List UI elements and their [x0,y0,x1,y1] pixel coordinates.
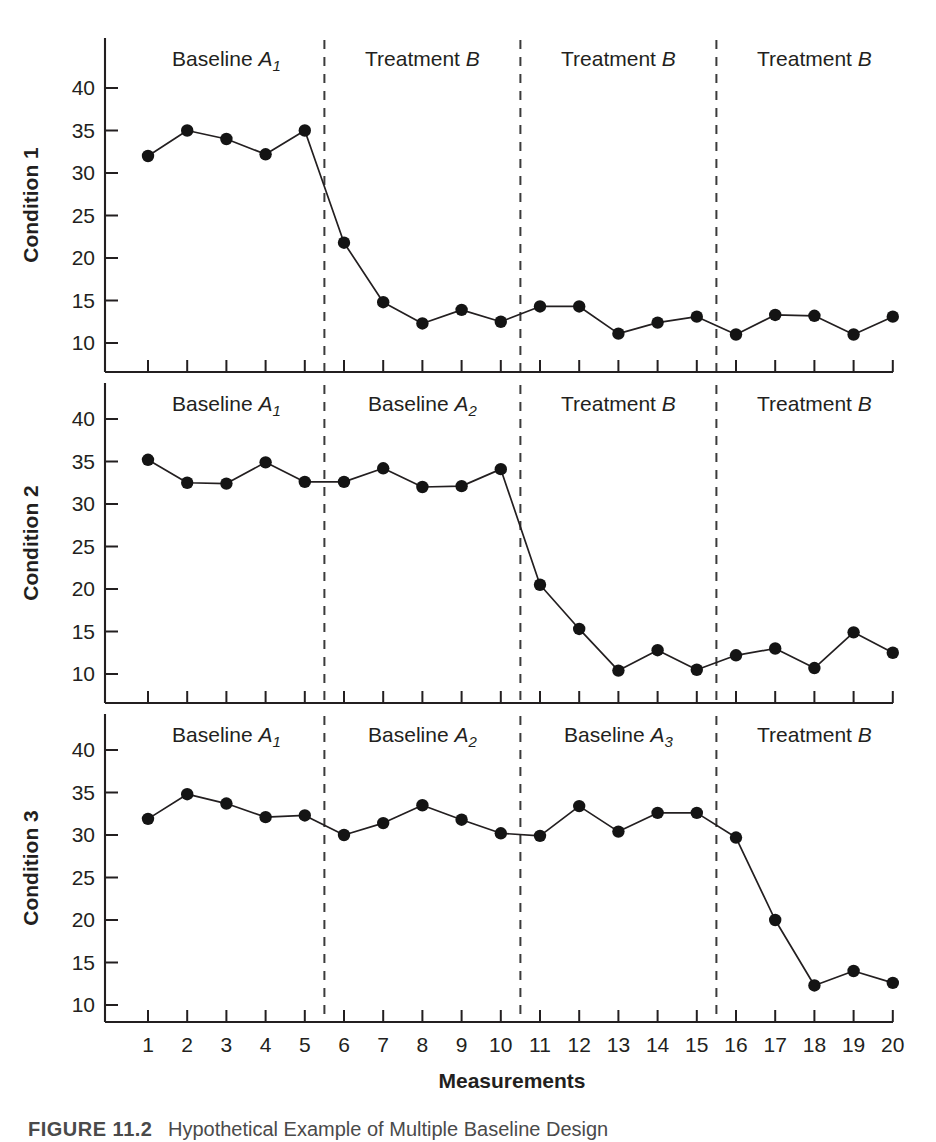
data-point [847,328,859,340]
data-point [769,309,781,321]
y-tick-label: 15 [72,951,95,974]
x-tick-label: 7 [377,1033,389,1056]
phase-label-3: Treatment B [561,392,676,415]
multiple-baseline-chart: 10152025303540Baseline A1Treatment BTrea… [0,0,936,1142]
data-point [808,979,820,991]
y-tick-label: 25 [72,204,95,227]
data-point [455,480,467,492]
data-point [651,316,663,328]
y-tick-label: 40 [72,738,95,761]
y-tick-label: 35 [72,781,95,804]
x-tick-label: 17 [764,1033,787,1056]
panel-y-axis-label: Condition 1 [19,147,42,263]
phase-label-4: Treatment B [757,723,872,746]
data-point [181,477,193,489]
y-tick-label: 30 [72,161,95,184]
x-axis-group: 1234567891011121314151617181920 [142,1033,904,1056]
data-point [691,664,703,676]
data-point [142,454,154,466]
data-point [142,150,154,162]
data-point [259,811,271,823]
data-point [181,124,193,136]
data-point [220,477,232,489]
caption-line: FIGURE 11.2 Hypothetical Example of Mult… [28,1118,608,1140]
x-tick-label: 16 [724,1033,747,1056]
x-tick-label: 9 [456,1033,468,1056]
y-tick-label: 15 [72,289,95,312]
data-point [495,463,507,475]
panels-group: 10152025303540Baseline A1Treatment BTrea… [19,38,899,1022]
data-point [377,296,389,308]
y-tick-label: 40 [72,76,95,99]
panel-2: 10152025303540Baseline A1Baseline A2Trea… [19,383,899,703]
data-point [377,817,389,829]
data-point [142,813,154,825]
y-tick-label: 30 [72,492,95,515]
caption-prefix: FIGURE 11.2 [28,1118,152,1140]
data-point [259,456,271,468]
data-point [416,799,428,811]
phase-label-2: Treatment B [365,47,480,70]
panel-3: 10152025303540Baseline A1Baseline A2Base… [19,714,899,1022]
data-point [691,310,703,322]
data-point [377,462,389,474]
panel-1: 10152025303540Baseline A1Treatment BTrea… [19,38,899,372]
data-point [534,830,546,842]
data-point [259,148,271,160]
data-point [651,807,663,819]
data-point [769,914,781,926]
x-tick-label: 1 [142,1033,154,1056]
panel-y-axis-label: Condition 2 [19,485,42,600]
data-point [808,310,820,322]
data-point [220,133,232,145]
data-point [887,977,899,989]
phase-label-2: Baseline A2 [368,723,477,750]
data-point [691,807,703,819]
y-tick-label: 10 [72,993,95,1016]
data-point [338,237,350,249]
x-tick-label: 18 [803,1033,826,1056]
x-tick-label: 15 [685,1033,708,1056]
y-tick-label: 35 [72,119,95,142]
phase-label-1: Baseline A1 [172,723,281,750]
y-tick-label: 30 [72,823,95,846]
x-tick-label: 5 [299,1033,311,1056]
x-tick-label: 4 [260,1033,272,1056]
phase-label-4: Treatment B [757,47,872,70]
x-axis-title: Measurements [438,1069,585,1092]
x-tick-label: 12 [568,1033,591,1056]
x-tick-label: 10 [489,1033,512,1056]
data-point [573,300,585,312]
data-point [495,316,507,328]
y-tick-label: 20 [72,908,95,931]
data-point [455,304,467,316]
panel-y-axis-label: Condition 3 [19,810,42,925]
phase-label-3: Treatment B [561,47,676,70]
y-tick-label: 35 [72,450,95,473]
data-point [651,644,663,656]
data-point [730,831,742,843]
y-tick-label: 25 [72,535,95,558]
data-point [416,481,428,493]
y-tick-label: 40 [72,407,95,430]
data-point [730,649,742,661]
phase-label-1: Baseline A1 [172,47,281,74]
data-point [612,825,624,837]
phase-label-4: Treatment B [757,392,872,415]
y-tick-label: 15 [72,620,95,643]
x-tick-label: 13 [607,1033,630,1056]
x-tick-label: 3 [221,1033,233,1056]
y-tick-label: 20 [72,246,95,269]
x-tick-label: 6 [338,1033,350,1056]
data-point [612,664,624,676]
phase-label-2: Baseline A2 [368,392,477,419]
data-point [730,328,742,340]
x-tick-label: 14 [646,1033,670,1056]
x-tick-label: 19 [842,1033,865,1056]
phase-label-3: Baseline A3 [564,723,673,750]
x-tick-label: 8 [417,1033,429,1056]
x-tick-label: 11 [529,1033,551,1056]
y-tick-label: 10 [72,331,95,354]
data-point [181,788,193,800]
data-point [416,317,428,329]
